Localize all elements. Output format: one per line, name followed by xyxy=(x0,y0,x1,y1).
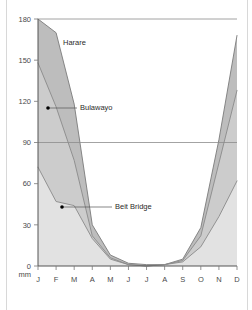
series-label-harare: Harare xyxy=(63,38,86,47)
y-tick-marks xyxy=(34,19,38,266)
series-label-bulawayo: Bulawayo xyxy=(80,103,113,112)
chart-figure: 0306090120150180 JFMAMJJASOND mm HarareB… xyxy=(0,0,252,310)
x-tick-label-7: A xyxy=(162,275,167,284)
y-tick-label-180: 180 xyxy=(18,15,31,24)
y-tick-label-150: 150 xyxy=(18,56,31,65)
x-tick-label-3: A xyxy=(90,275,95,284)
x-tick-label-2: M xyxy=(71,275,77,284)
y-tick-labels: 0306090120150180 xyxy=(18,15,31,271)
x-tick-labels: JFMAMJJASOND xyxy=(36,275,240,284)
x-tick-label-4: M xyxy=(107,275,113,284)
x-tick-label-10: N xyxy=(216,275,221,284)
y-tick-label-90: 90 xyxy=(23,138,31,147)
series-label-beit-bridge: Beit Bridge xyxy=(115,202,152,211)
y-tick-label-60: 60 xyxy=(23,179,31,188)
marker-dot-bulawayo xyxy=(46,106,50,110)
x-tick-label-11: D xyxy=(234,275,240,284)
x-tick-label-5: J xyxy=(127,275,131,284)
x-tick-label-8: S xyxy=(180,275,185,284)
x-tick-label-1: F xyxy=(54,275,59,284)
x-tick-label-6: J xyxy=(145,275,149,284)
y-axis-unit-label: mm xyxy=(19,270,32,279)
rainfall-area-chart: 0306090120150180 JFMAMJJASOND mm HarareB… xyxy=(0,0,252,310)
y-tick-label-30: 30 xyxy=(23,221,31,230)
marker-dot-beit-bridge xyxy=(60,205,64,209)
y-tick-label-120: 120 xyxy=(18,97,31,106)
x-tick-label-0: J xyxy=(36,275,40,284)
x-tick-marks xyxy=(38,266,237,270)
x-tick-label-9: O xyxy=(198,275,204,284)
